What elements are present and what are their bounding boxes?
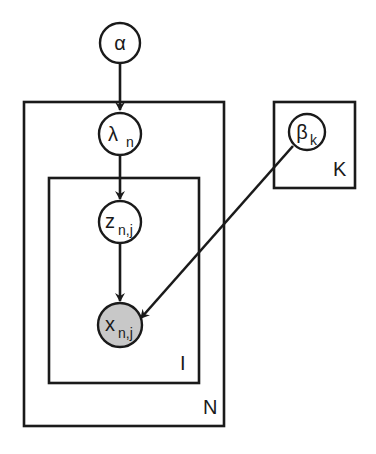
- node-x-symbol: x: [105, 313, 115, 335]
- node-alpha-label: α: [114, 32, 126, 54]
- node-lambda: λ n: [99, 113, 141, 155]
- node-beta: β k: [289, 114, 325, 150]
- node-lambda-symbol: λ: [108, 123, 118, 145]
- node-x-subscript: n,j: [118, 325, 133, 341]
- node-lambda-subscript: n: [126, 134, 134, 150]
- plate-I-label: I: [180, 352, 186, 374]
- node-z: z n,j: [99, 201, 141, 243]
- node-z-symbol: z: [105, 210, 115, 232]
- edge-beta-x: [141, 146, 293, 318]
- node-z-subscript: n,j: [118, 222, 133, 238]
- plate-N-label: N: [203, 396, 217, 418]
- svg-text:λ: λ: [108, 123, 118, 145]
- node-beta-subscript: k: [310, 132, 318, 148]
- plate-diagram: I N K α λ n z n,j x n,j β k: [0, 0, 376, 454]
- node-alpha: α: [100, 23, 140, 63]
- node-x-observed: x n,j: [98, 303, 142, 347]
- plate-K-label: K: [333, 158, 347, 180]
- node-beta-symbol: β: [296, 121, 308, 143]
